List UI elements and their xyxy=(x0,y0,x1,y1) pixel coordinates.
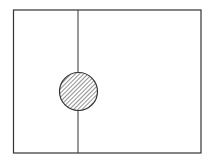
outer-frame xyxy=(14,10,202,153)
hatched-circle xyxy=(60,73,98,111)
diagram-canvas xyxy=(0,0,215,164)
